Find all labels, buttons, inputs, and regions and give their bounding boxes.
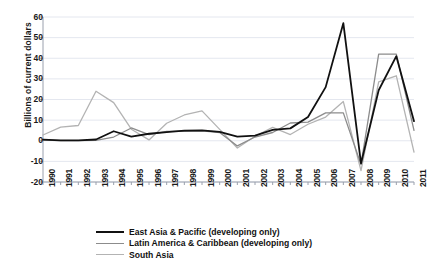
y-tick-label: 50 [17,33,43,42]
legend-label: East Asia & Pacific (developing only) [129,227,280,237]
y-tick-label: 0 [17,136,43,145]
x-tick-label: 1995 [135,169,145,187]
x-tick-label: 2000 [223,169,233,187]
x-tick-label: 1991 [64,169,74,187]
x-tick-label: 1993 [100,169,110,187]
legend-item: East Asia & Pacific (developing only) [96,226,312,238]
x-tick-label: 2003 [276,169,286,187]
y-axis-tick-labels: -20-100102030405060 [10,0,43,190]
x-tick-label: 1996 [153,169,163,187]
x-tick-label: 2005 [312,169,322,187]
x-tick-label: 2004 [294,169,304,187]
y-tick-label: -20 [17,178,43,187]
x-tick-label: 2007 [347,169,357,187]
legend-label: Latin America & Caribbean (developing on… [129,238,312,248]
legend-label: South Asia [129,250,174,260]
x-tick-label: 2006 [329,169,339,187]
legend-line-icon [96,231,124,233]
y-tick-label: -10 [17,157,43,166]
x-tick-label: 1994 [117,169,127,187]
x-tick-label: 2001 [241,169,251,187]
x-tick-label: 1998 [188,169,198,187]
y-tick-label: 10 [17,116,43,125]
x-tick-label: 2009 [382,169,392,187]
legend-line-icon [96,243,124,244]
legend-line-icon [96,254,124,255]
x-tick-label: 2010 [400,169,410,187]
x-tick-label: 1997 [170,169,180,187]
chart-legend: East Asia & Pacific (developing only)Lat… [96,226,312,261]
y-tick-label: 20 [17,95,43,104]
x-tick-label: 1990 [47,169,57,187]
x-tick-label: 1992 [82,169,92,187]
x-tick-label: 1999 [206,169,216,187]
y-tick-label: 60 [17,13,43,22]
y-tick-label: 30 [17,74,43,83]
y-tick-label: 40 [17,54,43,63]
x-tick-label: 2008 [365,169,375,187]
legend-item: Latin America & Caribbean (developing on… [96,238,312,250]
legend-item: South Asia [96,249,312,261]
x-tick-label: 2002 [259,169,269,187]
x-tick-label: 2011 [418,169,428,187]
